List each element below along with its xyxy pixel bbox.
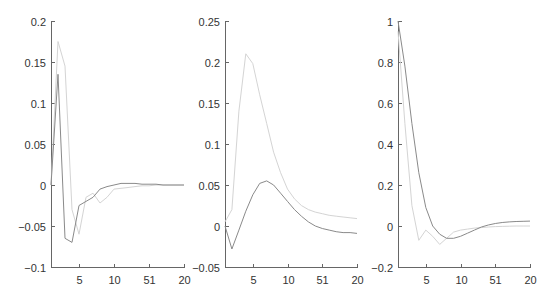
y-tick-label: −0.05 [18, 221, 46, 233]
series-line-dark [225, 181, 357, 249]
x-tick-label: 20 [524, 274, 536, 286]
x-tick-label: 10 [108, 274, 120, 286]
x-tick-label: 51 [489, 274, 501, 286]
y-tick-label: 0 [214, 221, 220, 233]
y-tick-label: 0 [40, 180, 46, 192]
y-tick-label: 0.25 [199, 16, 220, 28]
y-tick-label: 0.1 [205, 139, 220, 151]
series-line-dark [398, 21, 530, 238]
y-tick-label: 0.05 [199, 180, 220, 192]
series-line-light [225, 54, 357, 222]
y-tick-label: 0.4 [378, 139, 393, 151]
y-tick-label: 0.05 [25, 139, 46, 151]
y-tick-label: 0.2 [205, 57, 220, 69]
y-tick-label: 0.2 [31, 16, 46, 28]
x-tick-label: 20 [351, 274, 363, 286]
y-tick-label: 0.15 [25, 57, 46, 69]
series-line-light [398, 31, 530, 244]
y-tick-label: −0.05 [192, 262, 220, 274]
y-tick-label: 1 [387, 16, 393, 28]
y-tick-label: 0.6 [378, 98, 393, 110]
y-tick-label: 0.8 [378, 57, 393, 69]
axis-lines [52, 21, 185, 268]
series-line-dark [51, 74, 184, 242]
x-tick-label: 20 [178, 274, 190, 286]
y-tick-label: −0.1 [24, 262, 46, 274]
x-tick-label: 5 [76, 274, 82, 286]
axis-lines [399, 21, 531, 268]
x-tick-label: 51 [143, 274, 155, 286]
y-tick-label: 0.15 [199, 98, 220, 110]
x-tick-label: 51 [316, 274, 328, 286]
y-tick-label: 0.1 [31, 98, 46, 110]
chart-canvas: −0.1−0.0500.050.10.150.25105120 −0.0500.… [0, 0, 550, 300]
x-tick-label: 5 [423, 274, 429, 286]
y-tick-label: 0 [387, 221, 393, 233]
chart-panel-3: −0.200.20.40.60.815105120 [371, 16, 536, 287]
x-tick-label: 5 [250, 274, 256, 286]
x-tick-label: 10 [455, 274, 467, 286]
y-tick-label: −0.2 [371, 262, 393, 274]
series-line-light [51, 42, 184, 235]
chart-panel-2: −0.0500.050.10.150.20.255105120 [192, 16, 363, 287]
chart-panel-1: −0.1−0.0500.050.10.150.25105120 [18, 16, 190, 287]
y-tick-label: 0.2 [378, 180, 393, 192]
x-tick-label: 10 [282, 274, 294, 286]
